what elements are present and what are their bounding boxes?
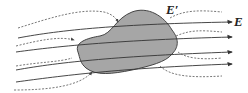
applied-field-label: E bbox=[234, 14, 243, 30]
field-diagram bbox=[0, 0, 248, 93]
induced-field-label: E′ bbox=[166, 2, 178, 18]
